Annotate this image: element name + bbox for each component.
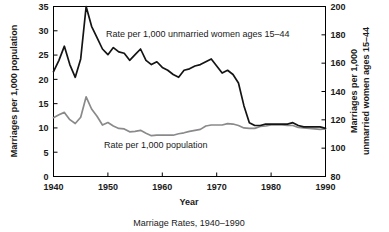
right-axis-tick-labels: 80100120140160180200 xyxy=(331,2,346,182)
y-ticklabel-left: 30 xyxy=(38,26,48,36)
annotation-unmarried-women: Rate per 1,000 unmarried women ages 15–4… xyxy=(106,29,290,39)
series-line-rate-per-1000-population xyxy=(54,97,326,136)
y-ticklabel-right: 80 xyxy=(331,172,341,182)
y-ticklabel-right: 200 xyxy=(331,2,346,12)
y-ticklabel-right: 140 xyxy=(331,87,346,97)
x-ticklabel: 1970 xyxy=(207,182,227,192)
x-axis-title: Year xyxy=(179,197,199,207)
y-axis-right-title-line2: unmarried women ages 15–44 xyxy=(361,27,371,155)
y-ticklabel-right: 100 xyxy=(331,143,346,153)
y-ticklabel-left: 15 xyxy=(38,99,48,109)
annotation-population: Rate per 1,000 population xyxy=(104,140,208,150)
y-ticklabel-left: 5 xyxy=(43,148,48,158)
y-axis-left-title: Marriages per 1,000 population xyxy=(9,25,19,158)
chart-svg: 05101520253035 80100120140160180200 1940… xyxy=(0,0,389,232)
x-axis-ticks xyxy=(54,173,326,177)
x-ticklabel: 1950 xyxy=(98,182,118,192)
series-line-rate-per-1000-unmarried-women xyxy=(54,7,326,129)
marriage-rates-chart-figure: 05101520253035 80100120140160180200 1940… xyxy=(0,0,389,232)
y-axis-right-title-line1: Marriages per 1,000 xyxy=(349,49,359,133)
y-ticklabel-left: 35 xyxy=(38,2,48,12)
x-ticklabel: 1960 xyxy=(152,182,172,192)
y-ticklabel-left: 10 xyxy=(38,123,48,133)
figure-caption: Marriage Rates, 1940–1990 xyxy=(133,218,245,228)
y-ticklabel-left: 20 xyxy=(38,75,48,85)
y-ticklabel-left: 25 xyxy=(38,50,48,60)
left-axis-ticks xyxy=(54,7,58,177)
x-ticklabel: 1980 xyxy=(261,182,281,192)
y-ticklabel-left: 0 xyxy=(43,172,48,182)
x-ticklabel: 1990 xyxy=(315,182,335,192)
y-ticklabel-right: 120 xyxy=(331,115,346,125)
left-axis-tick-labels: 05101520253035 xyxy=(38,2,48,182)
right-axis-ticks xyxy=(322,7,326,177)
y-ticklabel-right: 160 xyxy=(331,58,346,68)
x-axis-tick-labels: 194019501960197019801990 xyxy=(43,182,335,192)
x-ticklabel: 1940 xyxy=(43,182,63,192)
y-ticklabel-right: 180 xyxy=(331,30,346,40)
